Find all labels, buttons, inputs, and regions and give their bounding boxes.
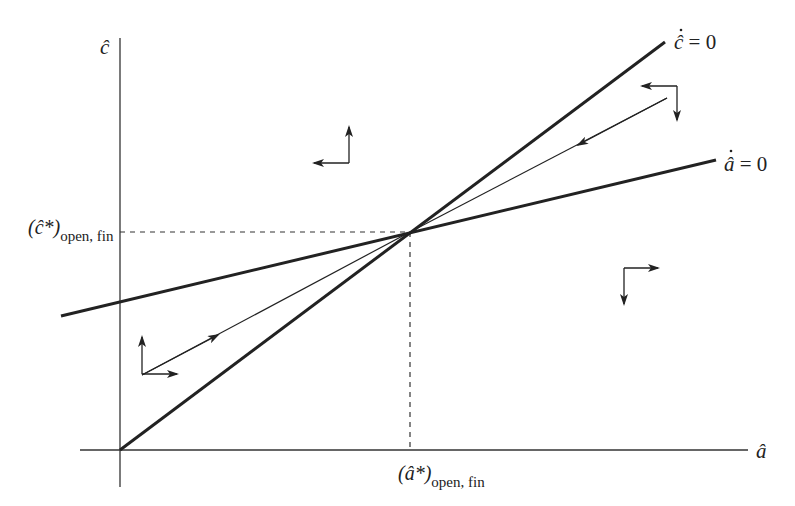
a-dot-zero-label: â = 0 bbox=[724, 150, 767, 176]
svg-text:â = 0: â = 0 bbox=[724, 152, 767, 176]
x-axis-label: â bbox=[756, 439, 767, 463]
y-axis-label: ĉ bbox=[100, 35, 110, 59]
c-dot-zero-locus bbox=[120, 42, 665, 450]
direction-arrow-upper-right bbox=[642, 86, 677, 120]
steady-state-c-label: (ĉ*)open, fin bbox=[28, 216, 114, 244]
direction-arrow-upper-left bbox=[314, 127, 349, 163]
a-dot-zero-locus bbox=[61, 160, 716, 316]
saddle-path-upper-arrow bbox=[578, 98, 667, 145]
direction-arrow-lower-right bbox=[624, 268, 658, 304]
saddle-path-lower-arrow bbox=[142, 335, 218, 375]
direction-arrow-lower-left bbox=[142, 337, 177, 374]
steady-state-a-label: (â*)open, fin bbox=[398, 462, 485, 490]
c-dot-zero-label: ĉ = 0 bbox=[674, 29, 716, 54]
svg-text:ĉ = 0: ĉ = 0 bbox=[674, 30, 716, 54]
phase-diagram: ĉ â ĉ = 0 â = 0 (ĉ*)open, fin (â*)open, … bbox=[0, 0, 795, 506]
